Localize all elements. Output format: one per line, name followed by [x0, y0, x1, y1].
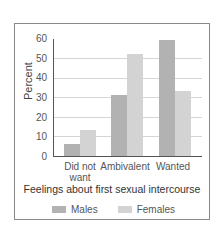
legend-label-males: Males — [71, 204, 98, 215]
x-category-wanted: Wanted — [153, 161, 193, 172]
bar-males-did-not-want — [64, 144, 80, 156]
bar-males-ambivalent — [111, 95, 127, 156]
bar-females-wanted — [175, 91, 191, 156]
legend-swatch-males — [52, 206, 66, 213]
bar-females-ambivalent — [127, 54, 143, 156]
y-tick-10: 10 — [31, 132, 47, 142]
x-axis-title: Feelings about first sexual intercourse — [0, 183, 224, 195]
bar-females-did-not-want — [80, 130, 96, 156]
x-category-ambivalent: Ambivalent — [100, 161, 150, 172]
y-tick-0: 0 — [31, 152, 47, 162]
legend-item-males: Males — [52, 204, 98, 215]
y-tick-30: 30 — [31, 93, 47, 103]
legend: Males Females — [52, 204, 195, 215]
y-tick-20: 20 — [31, 113, 47, 123]
legend-item-females: Females — [118, 204, 175, 215]
bar-males-wanted — [159, 40, 175, 156]
y-tick-50: 50 — [31, 54, 47, 64]
category-label-line: Did not — [60, 161, 100, 172]
category-label-line: want — [60, 172, 100, 183]
y-tick-60: 60 — [31, 34, 47, 44]
plot-area — [53, 39, 202, 157]
legend-swatch-females — [118, 206, 132, 213]
y-tick-40: 40 — [31, 73, 47, 83]
legend-label-females: Females — [137, 204, 175, 215]
x-category-did-not-want: Did not want — [60, 161, 100, 183]
